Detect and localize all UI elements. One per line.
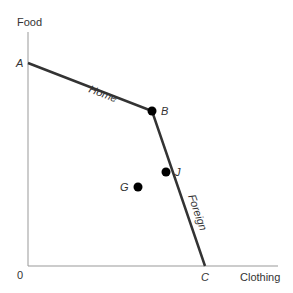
point-c-label: C — [201, 271, 209, 283]
home-line-label: Home — [87, 83, 119, 105]
ppf-chart: Food A B J G C 0 Clothing Home Foreign — [0, 0, 293, 293]
point-b-label: B — [161, 105, 168, 117]
point-j — [162, 168, 171, 177]
point-g-label: G — [120, 181, 129, 193]
point-g — [134, 183, 143, 192]
y-axis-label: Food — [17, 16, 42, 28]
point-b — [148, 107, 157, 116]
foreign-line-label: Foreign — [186, 193, 209, 232]
point-j-label: J — [174, 166, 181, 178]
origin-label: 0 — [17, 269, 23, 281]
x-axis-label: Clothing — [240, 271, 280, 283]
point-a-label: A — [15, 57, 23, 69]
